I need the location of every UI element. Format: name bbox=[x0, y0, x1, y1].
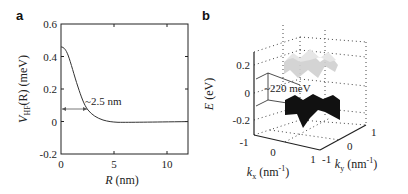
width-annotation: ~2.5 nm bbox=[85, 95, 122, 107]
plot-a-frame bbox=[61, 24, 188, 154]
ztick-label: -0.2 bbox=[233, 114, 250, 126]
ytick-label: 0.4 bbox=[43, 51, 57, 63]
x-axis-label: R (nm) bbox=[104, 173, 139, 187]
lower-band-surface bbox=[285, 94, 340, 128]
kx-axis-label: kx (nm-1) bbox=[247, 164, 289, 181]
kx-tick-label: 1 bbox=[310, 153, 316, 165]
ytick-label: 0.6 bbox=[43, 18, 57, 30]
z-axis-label: E (eV) bbox=[202, 78, 216, 111]
ky-axis bbox=[320, 125, 366, 150]
panel-a-chart: 0.6 0.4 0.2 0 -0.2 0 5 10 ~2.5 nm VHF(R)… bbox=[16, 18, 188, 187]
xtick-label: 10 bbox=[162, 158, 174, 170]
xtick-label: 5 bbox=[111, 158, 117, 170]
xtick-label: 0 bbox=[58, 158, 64, 170]
vhf-curve bbox=[61, 47, 188, 122]
kx-tick-label: 0 bbox=[270, 146, 276, 158]
ytick-label: -0.2 bbox=[40, 148, 57, 160]
ztick-label: 0 bbox=[245, 87, 251, 99]
ztick-label: 0.2 bbox=[236, 59, 250, 71]
y-axis-label: VHF(R) (meV) bbox=[16, 55, 32, 123]
gap-annotation: ~220 meV bbox=[264, 82, 311, 94]
figure-canvas: 0.6 0.4 0.2 0 -0.2 0 5 10 ~2.5 nm VHF(R)… bbox=[0, 0, 408, 194]
kx-axis bbox=[254, 135, 320, 150]
ky-tick-label: 1 bbox=[371, 126, 377, 138]
panel-b-chart: ~220 meV 0.2 0 -0.2 -1 0 1 1 0 -1 E (eV)… bbox=[202, 25, 377, 181]
ky-tick-label: 0 bbox=[347, 140, 353, 152]
ytick-label: 0.2 bbox=[43, 83, 57, 95]
ytick-label: 0 bbox=[52, 116, 58, 128]
ky-tick-label: -1 bbox=[322, 153, 331, 165]
ky-axis-label: ky (nm-1) bbox=[335, 156, 377, 173]
kx-tick-label: -1 bbox=[239, 136, 248, 148]
